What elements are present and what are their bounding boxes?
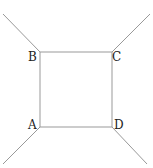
label-a: A	[27, 118, 37, 132]
line-c-outer	[112, 14, 150, 52]
line-b-outer	[3, 14, 40, 52]
square-diagram: B C A D	[0, 0, 153, 168]
label-d: D	[114, 118, 124, 132]
line-a-outer	[3, 127, 40, 164]
label-c: C	[112, 50, 121, 64]
diagram-canvas: B C A D	[0, 0, 153, 168]
label-b: B	[28, 50, 37, 64]
line-d-outer	[112, 127, 147, 164]
